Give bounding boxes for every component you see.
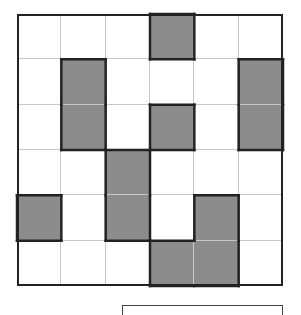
region-outlines xyxy=(17,14,283,286)
answer-box[interactable] xyxy=(122,305,283,315)
puzzle-grid xyxy=(17,14,283,286)
